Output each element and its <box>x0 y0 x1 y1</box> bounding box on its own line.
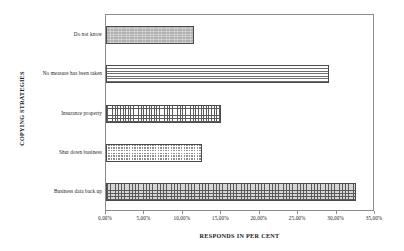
x-tick-label: 30,00% <box>327 215 344 221</box>
bar-insurance-property <box>106 105 221 123</box>
x-tick-mark <box>105 211 106 214</box>
bar-chart: COPYING STRATEGIES Do not knowNo measure… <box>0 0 404 251</box>
x-axis-ticks: 0,00%5,00%10,00%15,00%20,00%25,00%30,00%… <box>105 211 374 227</box>
x-tick-mark <box>182 211 183 214</box>
category-label-column: Do not knowNo measure has been takenInsu… <box>22 14 102 211</box>
bar-business-data-back-up <box>106 183 356 201</box>
bar-shut-down-business <box>106 144 202 162</box>
x-tick-label: 20,00% <box>250 215 267 221</box>
category-label: Business data back up <box>22 188 102 194</box>
x-tick-label: 35,00% <box>366 215 383 221</box>
x-tick-mark <box>336 211 337 214</box>
x-tick-label: 0,00% <box>98 215 112 221</box>
x-tick-label: 25,00% <box>289 215 306 221</box>
plot-area <box>105 14 374 211</box>
category-label: No measure has been taken <box>22 70 102 76</box>
x-tick-label: 10,00% <box>174 215 191 221</box>
x-tick-mark <box>297 211 298 214</box>
x-tick-mark <box>259 211 260 214</box>
x-tick-mark <box>220 211 221 214</box>
x-tick-label: 15,00% <box>212 215 229 221</box>
bar-no-measure-has-been-taken <box>106 65 329 83</box>
category-label: Insurance property <box>22 110 102 116</box>
x-axis-title: RESPONDS IN PER CENT <box>105 232 374 239</box>
x-tick-mark <box>374 211 375 214</box>
category-label: Do not know <box>22 31 102 37</box>
category-label: Shut down business <box>22 149 102 155</box>
x-tick-mark <box>143 211 144 214</box>
x-tick-label: 5,00% <box>136 215 150 221</box>
bar-do-not-know <box>106 26 194 44</box>
